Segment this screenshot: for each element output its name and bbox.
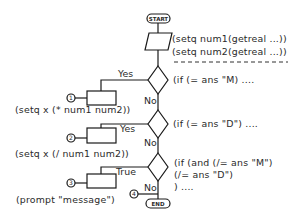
decision-2-yes-label: Yes: [119, 123, 135, 134]
decision-2-diamond: [148, 110, 168, 138]
decision-2-no-label: No: [144, 137, 157, 148]
decision-2-condition: (if (= ans "D") ....: [173, 118, 258, 129]
start-label: START: [149, 16, 169, 22]
marker-2-number: 2: [69, 134, 73, 141]
process-2-code: (setq x (/ num1 num2)): [15, 148, 129, 159]
end-label: END: [152, 201, 165, 207]
input-code-line-1: (setq num1(getreal ...)): [172, 33, 287, 44]
decision-1-condition: (if (= ans "M) ....: [173, 74, 254, 85]
process-1-box: [87, 91, 116, 105]
decision-1-yes-branch: [101, 80, 148, 91]
decision-3-no-label: No: [144, 182, 157, 193]
decision-3-condition-line-1: (if (and (/= ans "M"): [174, 157, 273, 168]
marker-3-number: 3: [69, 179, 73, 186]
flowchart-canvas: START END (setq num1(getreal ...)) (setq…: [0, 0, 303, 220]
input-parallelogram: [145, 33, 172, 50]
process-1-code: (setq x (* num1 num2)): [15, 104, 130, 115]
process-3-code: (prompt "message"): [16, 194, 115, 205]
decision-1-yes-label: Yes: [117, 68, 133, 79]
decision-3-condition-line-2: (/= ans "D"): [174, 169, 233, 180]
process-2-box: [87, 128, 116, 143]
decision-3-condition-line-3: ) ....: [174, 181, 194, 192]
decision-1-no-label: No: [144, 95, 157, 106]
decision-3-true-label: True: [115, 166, 136, 177]
decision-1-diamond: [148, 66, 168, 94]
marker-1-number: 1: [69, 94, 73, 101]
input-code-line-2: (setq num2(getreal ...)): [172, 46, 287, 57]
decision-3-diamond: [148, 153, 168, 181]
marker-4-number: 4: [132, 190, 136, 197]
process-3-box: [87, 174, 116, 188]
